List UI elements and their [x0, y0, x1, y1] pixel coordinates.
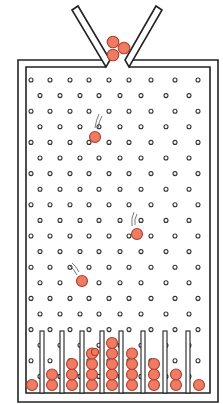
peg — [107, 203, 111, 207]
peg — [187, 312, 191, 316]
peg — [127, 172, 131, 176]
peg — [173, 140, 177, 144]
peg — [127, 78, 131, 82]
peg — [58, 250, 62, 254]
peg — [196, 172, 200, 176]
peg — [68, 203, 72, 207]
peg — [97, 156, 101, 160]
peg — [187, 187, 191, 191]
peg — [68, 140, 72, 144]
peg — [29, 234, 33, 238]
peg — [164, 187, 168, 191]
bin-divider — [100, 331, 104, 393]
peg — [38, 156, 42, 160]
peg — [127, 265, 131, 269]
peg — [187, 125, 191, 129]
peg — [68, 328, 72, 332]
peg — [196, 328, 200, 332]
galton-board — [0, 0, 223, 404]
peg — [87, 140, 91, 144]
peg — [139, 187, 143, 191]
bin-ball — [127, 380, 138, 391]
peg — [87, 328, 91, 332]
bin-ball — [67, 380, 78, 391]
peg — [173, 172, 177, 176]
peg — [173, 328, 177, 332]
peg — [68, 78, 72, 82]
peg — [97, 281, 101, 285]
peg — [29, 296, 33, 300]
peg — [58, 156, 62, 160]
peg — [127, 296, 131, 300]
peg — [164, 94, 168, 98]
peg — [29, 140, 33, 144]
peg — [164, 250, 168, 254]
peg — [196, 78, 200, 82]
bin-ball — [171, 380, 182, 391]
peg — [48, 140, 52, 144]
bin-divider — [119, 331, 123, 393]
peg — [187, 218, 191, 222]
peg — [107, 109, 111, 113]
peg — [164, 218, 168, 222]
peg — [139, 156, 143, 160]
peg — [87, 234, 91, 238]
peg — [38, 250, 42, 254]
peg — [48, 172, 52, 176]
bin-ball — [127, 359, 138, 370]
funnel-ball — [118, 42, 130, 54]
peg — [173, 203, 177, 207]
peg — [196, 203, 200, 207]
peg — [173, 265, 177, 269]
peg — [58, 281, 62, 285]
peg — [38, 94, 42, 98]
peg — [149, 140, 153, 144]
peg — [48, 328, 52, 332]
peg — [38, 187, 42, 191]
peg — [78, 312, 82, 316]
peg — [29, 109, 33, 113]
motion-line — [132, 212, 134, 226]
peg — [118, 125, 122, 129]
peg — [139, 218, 143, 222]
peg — [118, 281, 122, 285]
peg — [68, 172, 72, 176]
peg — [187, 156, 191, 160]
peg — [58, 94, 62, 98]
bin-divider — [40, 331, 44, 393]
bin-ball — [127, 348, 138, 359]
bin-ball — [107, 348, 118, 359]
bin-divider — [163, 331, 167, 393]
bin-ball — [27, 380, 38, 391]
bin-ball — [107, 338, 118, 349]
peg — [127, 203, 131, 207]
peg — [48, 203, 52, 207]
peg — [78, 218, 82, 222]
peg — [97, 187, 101, 191]
peg — [149, 328, 153, 332]
bin-ball — [149, 359, 160, 370]
peg — [107, 78, 111, 82]
peg — [149, 78, 153, 82]
peg — [48, 234, 52, 238]
peg — [139, 281, 143, 285]
peg — [149, 172, 153, 176]
peg — [29, 328, 33, 332]
bin-ball — [107, 359, 118, 370]
peg — [87, 203, 91, 207]
peg — [97, 125, 101, 129]
peg — [164, 281, 168, 285]
peg — [187, 250, 191, 254]
peg — [87, 172, 91, 176]
peg — [38, 218, 42, 222]
peg — [107, 296, 111, 300]
peg — [107, 140, 111, 144]
peg — [139, 94, 143, 98]
bin-ball — [67, 359, 78, 370]
peg — [78, 94, 82, 98]
peg — [68, 234, 72, 238]
peg — [97, 312, 101, 316]
peg — [127, 109, 131, 113]
peg — [87, 296, 91, 300]
peg — [196, 359, 200, 363]
